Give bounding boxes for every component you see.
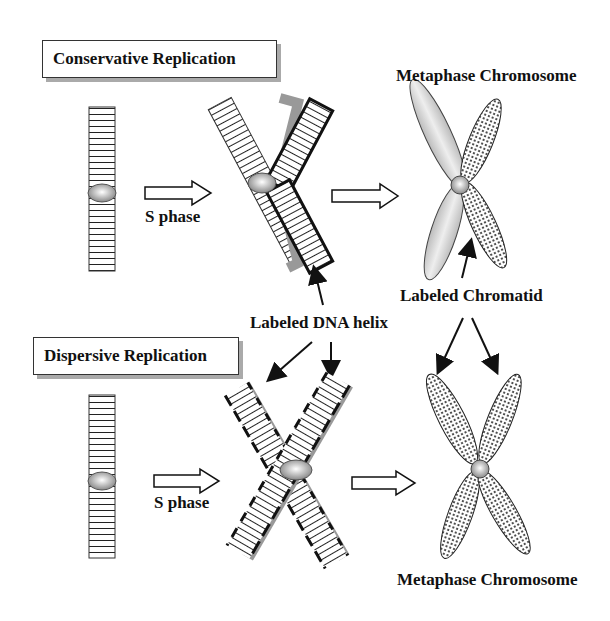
labeled-dna-helix-label: Labeled DNA helix [250, 313, 388, 333]
top-replicated-x [208, 97, 332, 273]
top-s-phase-arrow [145, 181, 211, 205]
diagram-canvas [0, 0, 610, 621]
bottom-metaphase-chromosome [418, 369, 539, 563]
bottom-s-phase-arrow [154, 469, 219, 493]
top-s-phase-label: S phase [145, 207, 200, 227]
bottom-unreplicated-chromosome [88, 395, 116, 558]
chromatid-pointer-right [472, 318, 495, 368]
top-condense-arrow [332, 184, 398, 208]
top-metaphase-chromosome [401, 74, 515, 283]
bottom-condense-arrow [352, 471, 415, 495]
bottom-s-phase-label: S phase [154, 493, 209, 513]
chromatid-pointer-arrow [462, 245, 470, 278]
bottom-replicated-x-dispersive [225, 372, 353, 568]
bottom-metaphase-label: Metaphase Chromosome [397, 570, 578, 590]
dispersive-title-text: Dispersive Replication [44, 346, 207, 366]
chromatid-pointer-left [440, 318, 463, 368]
top-unreplicated-chromosome [88, 107, 116, 271]
dispersive-replication-title: Dispersive Replication [33, 337, 239, 375]
labeled-chromatid-label: Labeled Chromatid [400, 286, 543, 306]
conservative-title-text: Conservative Replication [53, 49, 236, 69]
top-metaphase-label: Metaphase Chromosome [396, 66, 577, 86]
conservative-replication-title: Conservative Replication [42, 40, 277, 78]
dna-helix-pointer-up [315, 272, 323, 305]
dna-helix-pointer-left [272, 342, 312, 377]
